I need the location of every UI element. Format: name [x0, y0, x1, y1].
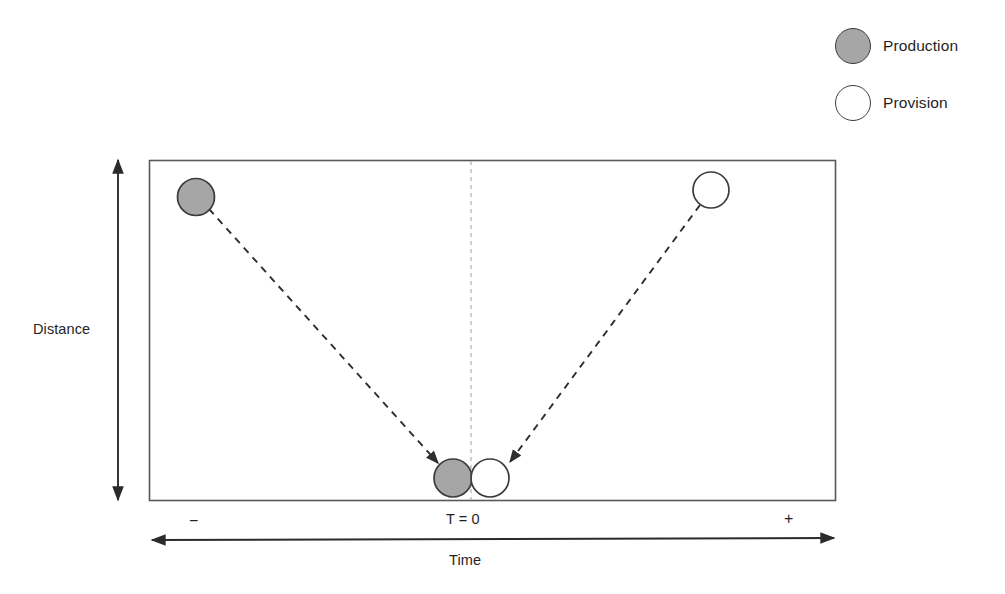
- y-axis-label: Distance: [33, 321, 90, 337]
- legend-label-provision: Provision: [883, 94, 948, 112]
- legend: Production Provision: [835, 28, 1005, 128]
- x-tick-zero: T = 0: [446, 511, 480, 527]
- filled-circle-icon: [835, 28, 871, 64]
- legend-label-production: Production: [883, 37, 958, 55]
- production-marker-start: [178, 179, 215, 216]
- legend-item-production: Production: [835, 28, 958, 64]
- open-circle-icon: [835, 85, 871, 121]
- x-axis-label: Time: [449, 552, 481, 568]
- time-axis-arrow: [152, 538, 834, 540]
- plot-frame: [150, 161, 836, 501]
- convergence-diagram: Distance Time − T = 0 + Production Provi…: [0, 0, 1005, 594]
- x-tick-negative: −: [189, 512, 198, 530]
- legend-item-provision: Provision: [835, 85, 948, 121]
- provision-marker-start: [693, 172, 729, 208]
- x-tick-positive: +: [784, 510, 793, 528]
- production-marker-converged: [434, 459, 472, 497]
- provision-marker-converged: [471, 459, 509, 497]
